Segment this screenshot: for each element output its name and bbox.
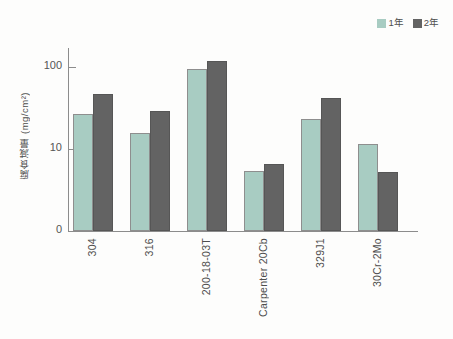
bar-series1 xyxy=(358,144,378,231)
y-tick-mark xyxy=(68,231,76,232)
corrosion-bar-chart: 1年 2年 腐食減量 (mg/cm²) 100100 304316200-18-… xyxy=(0,0,453,339)
chart-legend: 1年 2年 xyxy=(377,18,439,28)
legend-label-series-1: 1年 xyxy=(388,18,403,28)
y-tick-label: 100 xyxy=(28,59,62,71)
legend-item-2: 2年 xyxy=(413,18,439,28)
bar-series2 xyxy=(378,172,398,231)
x-category-label: 30Cr-2Mo xyxy=(371,238,383,287)
x-category-label: 316 xyxy=(143,238,155,256)
bar-series2 xyxy=(93,94,113,231)
bar-series1 xyxy=(244,171,264,231)
bar-series2 xyxy=(321,98,341,231)
bar-series1 xyxy=(187,69,207,231)
x-category-label: Carpenter 20Cb xyxy=(257,238,269,317)
legend-swatch-series-1 xyxy=(377,19,386,28)
y-tick-mark xyxy=(68,67,76,68)
legend-label-series-2: 2年 xyxy=(424,18,439,28)
y-axis-label: 腐食減量 (mg/cm²) xyxy=(18,92,36,179)
y-tick-label: 0 xyxy=(28,223,62,235)
x-category-label: 304 xyxy=(86,238,98,256)
legend-item-1: 1年 xyxy=(377,18,403,28)
bar-series2 xyxy=(150,111,170,231)
bar-series2 xyxy=(207,61,227,231)
bar-series2 xyxy=(264,164,284,231)
bar-series1 xyxy=(301,119,321,231)
x-category-label: 329J1 xyxy=(314,238,326,268)
x-category-label: 200-18-03T xyxy=(200,238,212,295)
legend-swatch-series-2 xyxy=(413,19,422,28)
x-axis-line xyxy=(68,231,418,232)
bar-series1 xyxy=(130,133,150,231)
y-axis-line xyxy=(68,48,69,232)
bar-series1 xyxy=(73,114,93,231)
y-tick-label: 10 xyxy=(28,141,62,153)
